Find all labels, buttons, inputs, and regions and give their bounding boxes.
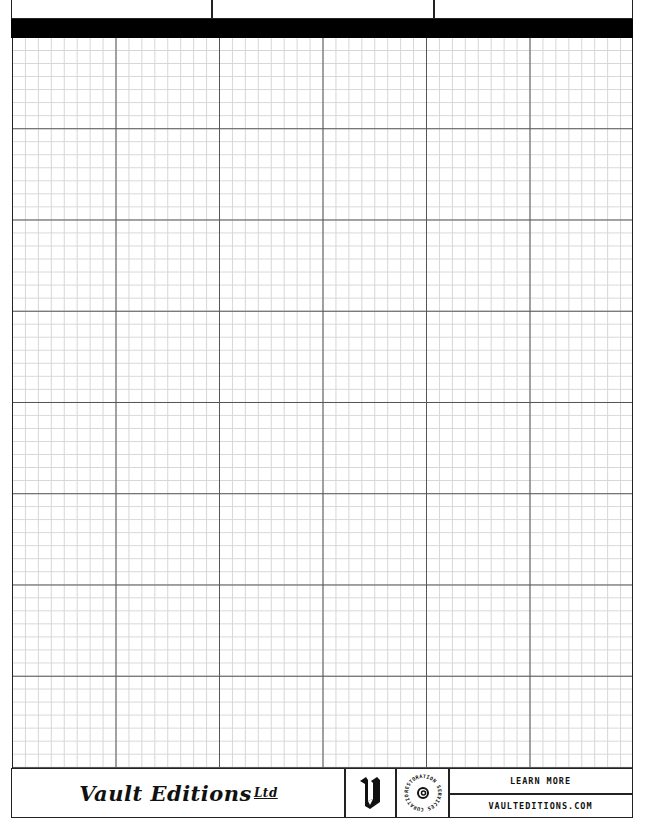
graph-paper-grid [12,38,633,768]
vault-v-logo-icon [346,769,396,817]
restoration-badge-icon: RESTORATION SERVICES CURATION AND [397,769,449,817]
header-black-bar [11,19,633,38]
footer: Vault Editions Ltd RESTORATION SERVICES … [11,768,633,818]
brand-wordmark: Vault Editions Ltd [12,769,345,817]
learn-more-link[interactable]: LEARN MORE [449,769,632,793]
header-title: · · · · · · [210,0,432,9]
brand-suffix: Ltd [254,786,278,800]
header-divider [433,0,435,18]
website-link[interactable]: VAULTEDITIONS.COM [449,794,632,818]
brand-name: Vault Editions [79,781,252,806]
